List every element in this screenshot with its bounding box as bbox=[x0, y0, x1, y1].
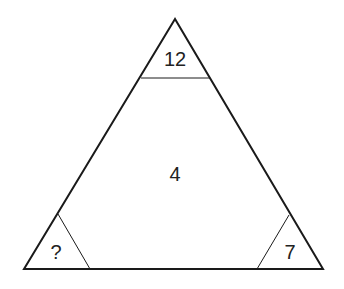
center-value: 4 bbox=[169, 164, 180, 184]
bottom-right-value: 7 bbox=[284, 242, 295, 262]
top-value: 12 bbox=[164, 49, 186, 69]
bottom-left-value: ? bbox=[50, 242, 61, 262]
left-corner-divider bbox=[58, 214, 90, 269]
